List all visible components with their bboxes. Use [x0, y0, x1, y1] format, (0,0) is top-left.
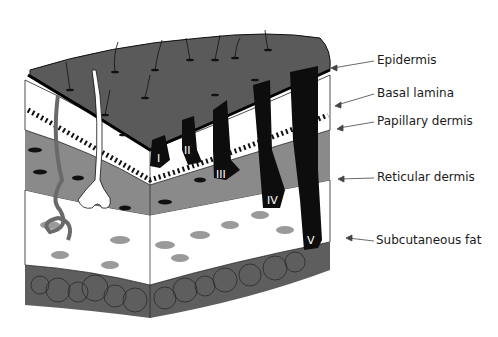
label-epidermis: Epidermis: [377, 53, 437, 67]
label-reticular-dermis: Reticular dermis: [377, 170, 475, 184]
level-III-label: III: [216, 168, 226, 181]
level-IV-label: IV: [267, 194, 278, 207]
level-II-label: II: [184, 144, 191, 157]
label-basal-lamina: Basal lamina: [377, 86, 454, 100]
level-I-label: I: [157, 152, 160, 165]
level-V-label: V: [307, 234, 315, 247]
label-papillary-dermis: Papillary dermis: [377, 114, 473, 128]
label-subcutaneous-fat: Subcutaneous fat: [376, 233, 481, 247]
skin-layer-diagram: I II III IV V: [0, 0, 498, 337]
leader-arrows: [331, 61, 374, 241]
